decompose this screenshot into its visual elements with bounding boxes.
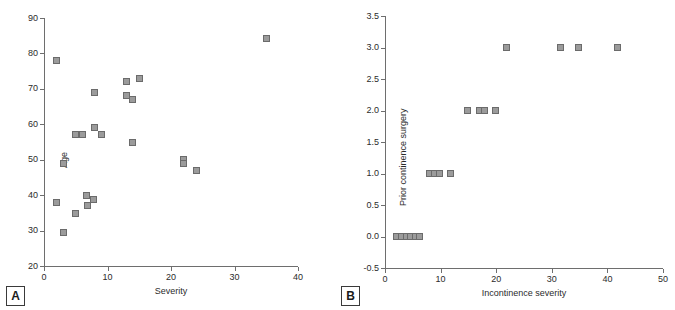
y-tick-a-2 xyxy=(40,195,44,196)
x-tick-b-2 xyxy=(496,269,497,273)
x-ticklabel-b-5: 50 xyxy=(651,275,675,284)
panel-label-a: A xyxy=(6,286,25,306)
data-point xyxy=(136,75,143,82)
data-point xyxy=(464,107,471,114)
y-ticklabel-b-2: 0.5 xyxy=(353,201,379,210)
data-point xyxy=(557,44,564,51)
y-tick-b-7 xyxy=(381,48,385,49)
data-point xyxy=(447,170,454,177)
data-point xyxy=(129,96,136,103)
y-tick-b-6 xyxy=(381,79,385,80)
x-axis-line-b xyxy=(385,268,663,269)
panel-a: 2030405060708090010203040SeverityAge A xyxy=(0,0,335,310)
x-axis-title-b: Incontinence severity xyxy=(385,289,663,298)
y-ticklabel-b-7: 3.0 xyxy=(353,43,379,52)
y-ticklabel-b-3: 1.0 xyxy=(353,169,379,178)
y-axis-line-a xyxy=(44,18,45,266)
x-ticklabel-a-3: 30 xyxy=(223,273,247,282)
x-tick-a-3 xyxy=(235,267,236,271)
data-point xyxy=(53,199,60,206)
y-ticklabel-b-5: 2.0 xyxy=(353,106,379,115)
y-tick-b-2 xyxy=(381,205,385,206)
data-point xyxy=(72,210,79,217)
data-point xyxy=(193,167,200,174)
x-ticklabel-b-1: 10 xyxy=(429,275,453,284)
data-point xyxy=(481,107,488,114)
data-point xyxy=(91,89,98,96)
x-ticklabel-b-3: 30 xyxy=(540,275,564,284)
y-ticklabel-a-2: 40 xyxy=(12,191,38,200)
y-tick-b-4 xyxy=(381,142,385,143)
y-tick-a-7 xyxy=(40,18,44,19)
x-ticklabel-a-2: 20 xyxy=(159,273,183,282)
x-tick-b-5 xyxy=(663,269,664,273)
data-point xyxy=(60,229,67,236)
data-point xyxy=(129,139,136,146)
x-ticklabel-a-1: 10 xyxy=(96,273,120,282)
y-tick-a-4 xyxy=(40,124,44,125)
x-ticklabel-b-2: 20 xyxy=(484,275,508,284)
x-ticklabel-b-0: 0 xyxy=(373,275,397,284)
data-point xyxy=(492,107,499,114)
y-ticklabel-b-8: 3.5 xyxy=(353,12,379,21)
y-ticklabel-b-0: -0.5 xyxy=(353,264,379,273)
data-point xyxy=(123,78,130,85)
x-tick-a-0 xyxy=(44,267,45,271)
y-ticklabel-b-1: 0.0 xyxy=(353,232,379,241)
x-tick-b-4 xyxy=(607,269,608,273)
y-ticklabel-a-3: 50 xyxy=(12,155,38,164)
x-tick-b-0 xyxy=(385,269,386,273)
data-point xyxy=(503,44,510,51)
x-ticklabel-b-4: 40 xyxy=(595,275,619,284)
x-axis-title-a: Severity xyxy=(44,287,298,296)
y-ticklabel-a-7: 90 xyxy=(12,14,38,23)
data-point xyxy=(83,192,90,199)
y-tick-a-1 xyxy=(40,231,44,232)
data-point xyxy=(90,196,97,203)
y-tick-b-8 xyxy=(381,16,385,17)
y-tick-a-6 xyxy=(40,53,44,54)
y-ticklabel-a-5: 70 xyxy=(12,84,38,93)
x-ticklabel-a-4: 40 xyxy=(286,273,310,282)
y-axis-title-b: Prior continence surgery xyxy=(399,108,408,206)
data-point xyxy=(263,35,270,42)
data-point xyxy=(98,131,105,138)
y-tick-b-1 xyxy=(381,237,385,238)
data-point xyxy=(436,170,443,177)
data-point xyxy=(180,160,187,167)
data-point xyxy=(614,44,621,51)
data-point xyxy=(416,233,423,240)
y-tick-b-3 xyxy=(381,174,385,175)
x-tick-a-4 xyxy=(298,267,299,271)
figure-container: 2030405060708090010203040SeverityAge A -… xyxy=(0,0,675,310)
data-point xyxy=(79,131,86,138)
data-point xyxy=(575,44,582,51)
y-tick-a-3 xyxy=(40,160,44,161)
data-point xyxy=(53,57,60,64)
y-ticklabel-a-0: 20 xyxy=(12,262,38,271)
y-ticklabel-a-1: 30 xyxy=(12,226,38,235)
x-tick-a-1 xyxy=(108,267,109,271)
x-tick-b-3 xyxy=(552,269,553,273)
panel-b: -0.50.00.51.01.52.02.53.03.501020304050I… xyxy=(335,0,675,310)
x-tick-b-1 xyxy=(441,269,442,273)
panel-label-b: B xyxy=(341,286,360,306)
y-ticklabel-b-6: 2.5 xyxy=(353,75,379,84)
x-tick-a-2 xyxy=(171,267,172,271)
y-axis-line-b xyxy=(385,16,386,268)
data-point xyxy=(60,160,67,167)
y-tick-a-5 xyxy=(40,89,44,90)
plot-area-a: 2030405060708090010203040SeverityAge xyxy=(44,18,298,266)
x-ticklabel-a-0: 0 xyxy=(32,273,56,282)
y-ticklabel-b-4: 1.5 xyxy=(353,138,379,147)
y-tick-b-5 xyxy=(381,111,385,112)
y-ticklabel-a-4: 60 xyxy=(12,120,38,129)
plot-area-b: -0.50.00.51.01.52.02.53.03.501020304050I… xyxy=(385,16,663,268)
y-ticklabel-a-6: 80 xyxy=(12,49,38,58)
data-point xyxy=(91,124,98,131)
